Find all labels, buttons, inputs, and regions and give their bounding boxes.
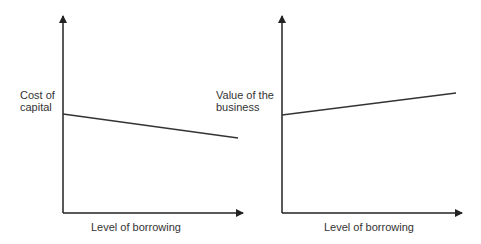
left-y-label-line2: capital — [20, 101, 55, 113]
right-chart — [282, 16, 462, 213]
cost-of-capital-line — [63, 114, 238, 138]
right-y-axis-label: Value of the business — [216, 89, 274, 113]
right-y-label-line1: Value of the — [216, 89, 274, 101]
left-chart — [63, 16, 243, 213]
left-x-axis-label: Level of borrowing — [91, 221, 181, 233]
right-y-label-line2: business — [216, 101, 274, 113]
right-x-axis-label: Level of borrowing — [324, 221, 414, 233]
diagram-canvas — [0, 0, 481, 244]
left-y-label-line1: Cost of — [20, 89, 55, 101]
left-y-axis-label: Cost of capital — [20, 89, 55, 113]
value-of-business-line — [282, 93, 456, 115]
